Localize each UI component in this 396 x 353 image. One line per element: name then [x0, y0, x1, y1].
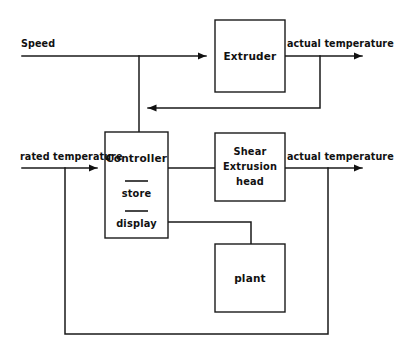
diagram-svg: Extruder Controller store display Shear …: [0, 0, 396, 353]
block-diagram-canvas: Extruder Controller store display Shear …: [0, 0, 396, 353]
block-shear-head-label-line1: Shear: [233, 146, 266, 157]
signal-label-speed: Speed: [21, 38, 55, 49]
wire-display-to-plant: [168, 222, 251, 244]
block-shear-head-label-line2: Extrusion: [223, 161, 277, 172]
signal-label-actual-temperature-bottom: actual temperature: [287, 151, 394, 162]
controller-item-display[interactable]: display: [116, 218, 157, 229]
block-plant-label: plant: [234, 272, 266, 284]
controller-item-store[interactable]: store: [122, 188, 152, 199]
signal-label-rated-temperature: rated temperature: [20, 151, 123, 162]
block-extruder-label: Extruder: [223, 50, 277, 62]
signal-label-actual-temperature-top: actual temperature: [287, 38, 394, 49]
block-shear-head-label-line3: head: [236, 176, 264, 187]
